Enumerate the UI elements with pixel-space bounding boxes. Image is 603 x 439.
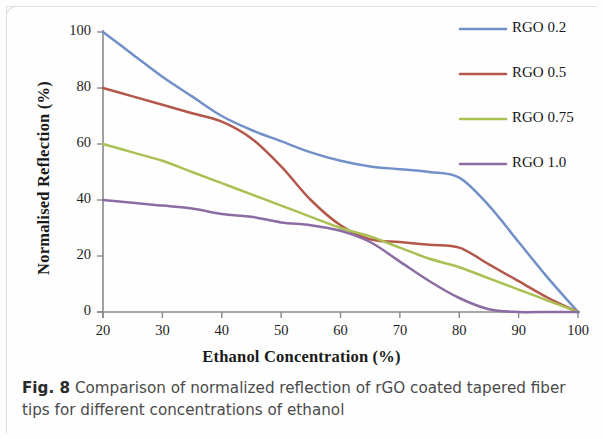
x-axis-tick-label: 30 (137, 322, 187, 339)
series-line-1 (103, 88, 578, 312)
figure-number: Fig. 8 (22, 379, 70, 397)
y-axis-tick-label: 40 (43, 190, 91, 207)
y-axis-tick-label: 100 (43, 22, 91, 39)
line-chart: Normalised Reflection (%) Ethanol Concen… (0, 0, 603, 372)
legend-label-1: RGO 0.5 (512, 64, 566, 81)
figure-caption-text: Comparison of normalized reflection of r… (22, 379, 566, 419)
x-axis-tick-label: 40 (197, 322, 247, 339)
x-axis-tick-label: 50 (256, 322, 306, 339)
y-axis-tick-label: 80 (43, 78, 91, 95)
x-axis-tick-label: 20 (78, 322, 128, 339)
x-axis-tick-label: 60 (316, 322, 366, 339)
legend-label-0: RGO 0.2 (512, 19, 566, 36)
y-axis-tick-label: 60 (43, 134, 91, 151)
y-axis-tick-label: 0 (43, 302, 91, 319)
x-axis-tick-label: 80 (434, 322, 484, 339)
figure-caption: Fig. 8 Comparison of normalized reflecti… (22, 378, 588, 421)
x-axis-tick-label: 70 (375, 322, 425, 339)
y-axis-tick-label: 20 (43, 246, 91, 263)
series-line-3 (103, 200, 578, 312)
x-axis-tick-label: 90 (494, 322, 544, 339)
figure-container: Normalised Reflection (%) Ethanol Concen… (0, 0, 603, 439)
x-axis-title: Ethanol Concentration (%) (0, 347, 603, 367)
x-axis-tick-label: 100 (553, 322, 603, 339)
legend-label-3: RGO 1.0 (512, 154, 566, 171)
legend-label-2: RGO 0.75 (512, 109, 574, 126)
